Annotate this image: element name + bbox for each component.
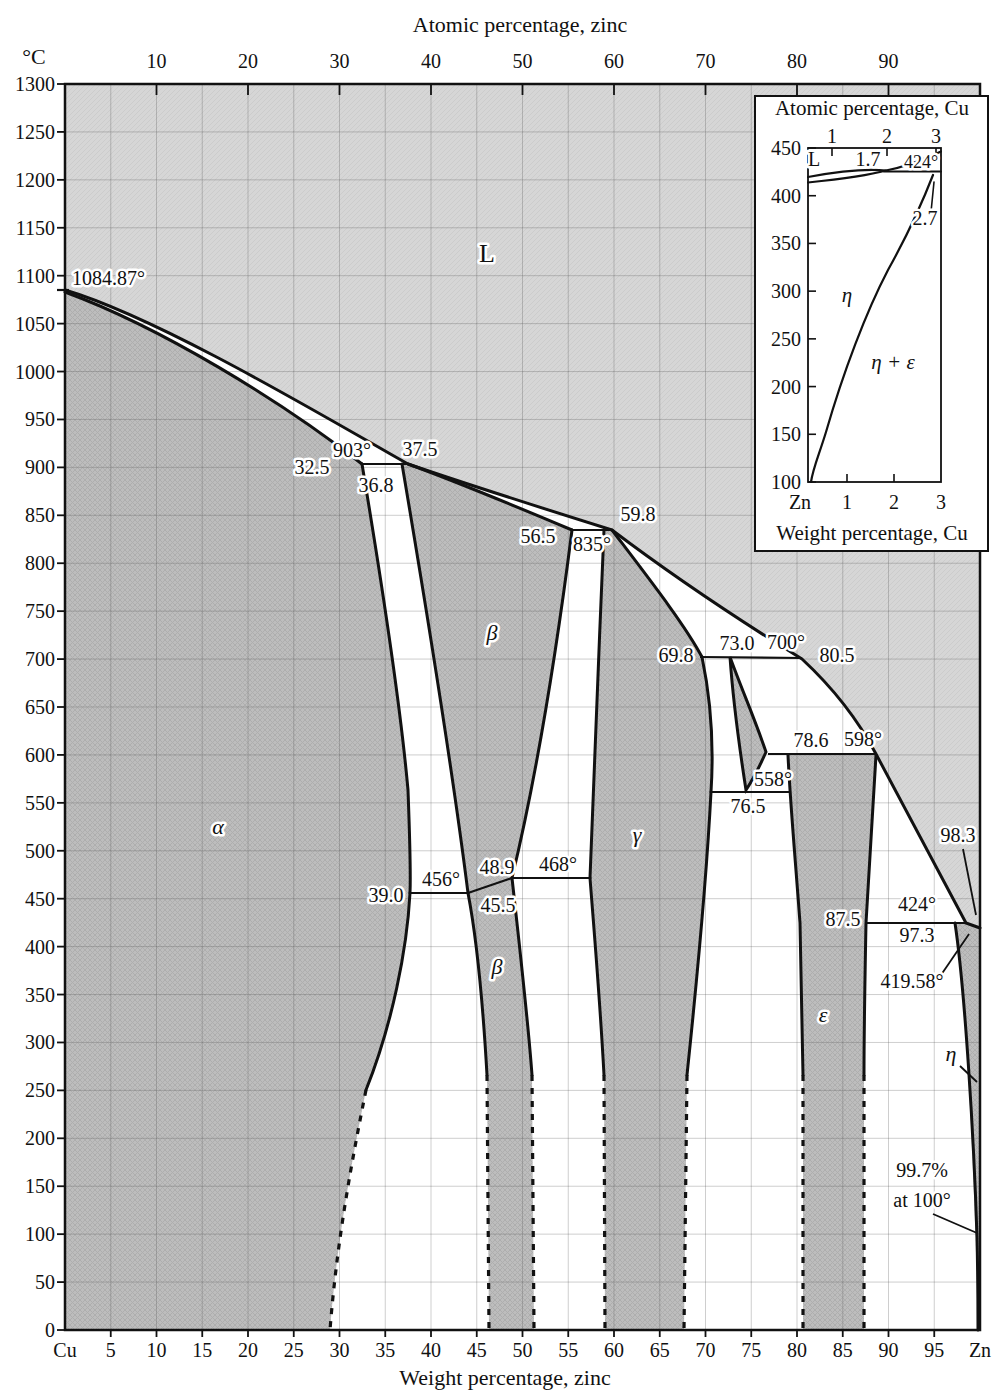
left-tick-label: 300 xyxy=(25,1031,55,1053)
inset-left-tick-label: 200 xyxy=(771,376,801,398)
bottom-tick-label: 15 xyxy=(192,1339,212,1361)
left-tick-label: 50 xyxy=(35,1271,55,1293)
annotation-β: β xyxy=(486,620,498,645)
annotation-1084.87°: 1084.87° xyxy=(72,267,145,289)
tie-700 xyxy=(700,657,802,658)
bottom-tick-label: Cu xyxy=(53,1339,76,1361)
top-tick-label: 70 xyxy=(696,50,716,72)
top-tick-label: 40 xyxy=(421,50,441,72)
bottom-tick-label: 70 xyxy=(696,1339,716,1361)
annotation-β: β xyxy=(491,954,503,979)
annotation-ε: ε xyxy=(819,1002,828,1027)
left-tick-label: 500 xyxy=(25,840,55,862)
inset-top-tick-label: 3 xyxy=(931,125,941,147)
bottom-axis-title: Weight percentage, zinc xyxy=(399,1365,611,1390)
left-tick-label: 900 xyxy=(25,456,55,478)
left-tick-label: 550 xyxy=(25,792,55,814)
annotation-419.58°: 419.58° xyxy=(881,970,944,992)
bottom-tick-label: 85 xyxy=(833,1339,853,1361)
bottom-tick-label: 80 xyxy=(787,1339,807,1361)
inset-bottom-axis-title: Weight percentage, Cu xyxy=(776,521,968,545)
cu-zn-phase-diagram-figure: 1300125012001150110010501000950900850800… xyxy=(0,0,1002,1397)
inset-left-tick-label: 150 xyxy=(771,423,801,445)
annotation-56.5: 56.5 xyxy=(521,525,556,547)
annotation-γ: γ xyxy=(633,822,643,847)
left-tick-label: 1050 xyxy=(15,313,55,335)
left-tick-label: 700 xyxy=(25,648,55,670)
annotation-37.5: 37.5 xyxy=(403,438,438,460)
annotation-97.3: 97.3 xyxy=(900,924,935,946)
annotation-39.0: 39.0 xyxy=(369,884,404,906)
annotation-598°: 598° xyxy=(844,728,882,750)
annotation-59.8: 59.8 xyxy=(621,503,656,525)
inset-annotation-1.7: 1.7 xyxy=(856,148,881,170)
inset-top-axis-title: Atomic percentage, Cu xyxy=(775,96,970,120)
top-tick-label: 90 xyxy=(879,50,899,72)
left-tick-label: 100 xyxy=(25,1223,55,1245)
bottom-tick-label: 5 xyxy=(106,1339,116,1361)
annotation-69.8: 69.8 xyxy=(659,644,694,666)
annotation-558°: 558° xyxy=(754,768,792,790)
inset-bottom-tick-label: 3 xyxy=(936,491,946,513)
top-tick-label: 30 xyxy=(330,50,350,72)
top-tick-label: 80 xyxy=(787,50,807,72)
annotation-424°: 424° xyxy=(898,893,936,915)
left-tick-label: 1250 xyxy=(15,121,55,143)
inset-left-tick-label: 400 xyxy=(771,185,801,207)
phase-diagram-svg: 1300125012001150110010501000950900850800… xyxy=(0,0,1002,1397)
left-tick-label: 450 xyxy=(25,888,55,910)
annotation-73.0: 73.0 xyxy=(720,632,755,654)
annotation-at 100°: at 100° xyxy=(893,1189,950,1211)
annotation-835°: 835° xyxy=(573,533,611,555)
bottom-tick-label: 55 xyxy=(558,1339,578,1361)
left-tick-label: 400 xyxy=(25,936,55,958)
bottom-tick-label: 25 xyxy=(284,1339,304,1361)
inset-left-tick-label: 250 xyxy=(771,328,801,350)
left-tick-label: 750 xyxy=(25,600,55,622)
left-tick-label: 800 xyxy=(25,552,55,574)
annotation-76.5: 76.5 xyxy=(731,795,766,817)
top-tick-label: 20 xyxy=(238,50,258,72)
left-tick-label: 200 xyxy=(25,1127,55,1149)
annotation-456°: 456° xyxy=(422,868,460,890)
annotation-99.7%: 99.7% xyxy=(896,1159,948,1181)
inset-left-tick-label: 450 xyxy=(771,137,801,159)
inset-zn-corner: 450400350300250200150100Zn123123 Atomic … xyxy=(755,96,988,551)
inset-annotation-η + ε: η + ε xyxy=(871,350,915,374)
inset-top-tick-label: 1 xyxy=(827,125,837,147)
annotation-45.5: 45.5 xyxy=(481,894,516,916)
left-tick-label: 1150 xyxy=(16,217,55,239)
annotation-80.5: 80.5 xyxy=(820,644,855,666)
inset-left-tick-label: 300 xyxy=(771,280,801,302)
inset-annotation-η: η xyxy=(842,283,852,307)
annotation-L: L xyxy=(479,239,495,268)
bottom-tick-label: 65 xyxy=(650,1339,670,1361)
inset-left-tick-label: 100 xyxy=(771,471,801,493)
left-tick-label: 1300 xyxy=(15,73,55,95)
annotation-α: α xyxy=(212,814,224,839)
top-tick-label: 60 xyxy=(604,50,624,72)
bottom-tick-label: 10 xyxy=(147,1339,167,1361)
left-tick-label: 1100 xyxy=(16,265,55,287)
annotation-36.8: 36.8 xyxy=(359,474,394,496)
bottom-tick-label: 30 xyxy=(330,1339,350,1361)
top-axis-title: Atomic percentage, zinc xyxy=(413,12,628,37)
left-tick-label: 650 xyxy=(25,696,55,718)
annotation-700°: 700° xyxy=(767,631,805,653)
bottom-tick-label: 95 xyxy=(924,1339,944,1361)
left-tick-label: 1000 xyxy=(15,361,55,383)
annotation-903°: 903° xyxy=(333,439,371,461)
left-tick-label: 250 xyxy=(25,1079,55,1101)
inset-bottom-tick-label: 2 xyxy=(889,491,899,513)
bottom-tick-label: 20 xyxy=(238,1339,258,1361)
inset-bottom-tick-label: 1 xyxy=(842,491,852,513)
left-tick-label: 1200 xyxy=(15,169,55,191)
bottom-tick-label: Zn xyxy=(969,1339,991,1361)
left-tick-label: 850 xyxy=(25,504,55,526)
bottom-tick-label: 40 xyxy=(421,1339,441,1361)
bottom-tick-label: 90 xyxy=(879,1339,899,1361)
top-tick-label: 50 xyxy=(513,50,533,72)
left-tick-label: 150 xyxy=(25,1175,55,1197)
bottom-tick-label: 60 xyxy=(604,1339,624,1361)
inset-annotation-L: L xyxy=(808,148,820,170)
